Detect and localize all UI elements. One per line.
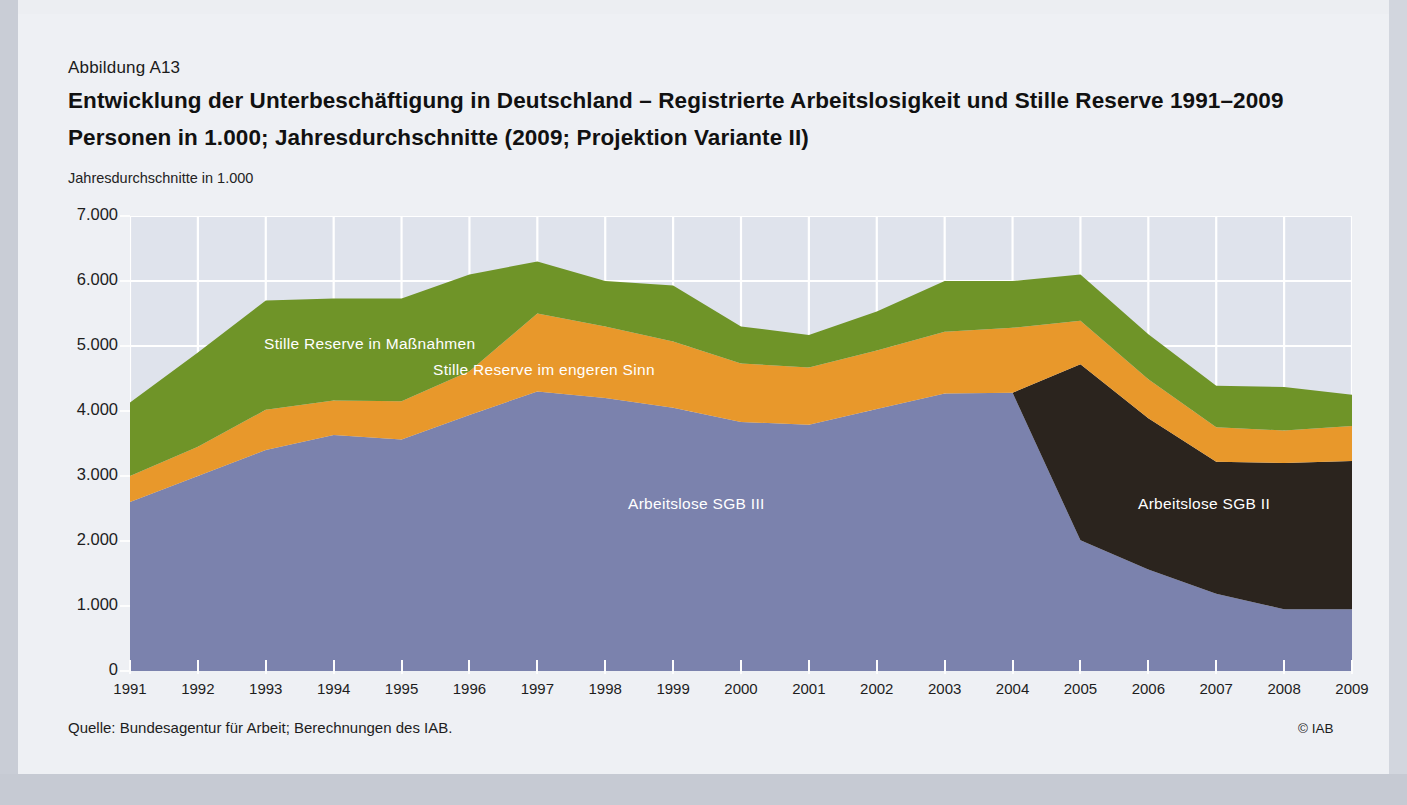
y-axis-tick [120, 215, 130, 217]
y-axis-tick-label: 0 [44, 660, 118, 679]
x-axis-tick-label: 2009 [1321, 680, 1383, 697]
y-axis-tick [120, 280, 130, 282]
x-axis-tick-label: 1994 [303, 680, 365, 697]
y-axis-tick [120, 540, 130, 542]
x-axis-tick [876, 660, 878, 674]
x-axis-tick [1215, 660, 1217, 674]
y-axis-tick [120, 345, 130, 347]
x-axis-tick [604, 660, 606, 674]
x-axis-tick-label: 1997 [506, 680, 568, 697]
x-axis-tick [672, 660, 674, 674]
x-axis-tick-label: 1999 [642, 680, 704, 697]
figure-title-line1: Entwicklung der Unterbeschäftigung in De… [68, 88, 1284, 114]
x-axis-tick [536, 660, 538, 674]
source-note: Quelle: Bundesagentur für Arbeit; Berech… [68, 719, 452, 736]
x-axis-tick-label: 2002 [846, 680, 908, 697]
x-axis-tick-label: 1992 [167, 680, 229, 697]
x-axis-tick-label: 2000 [710, 680, 772, 697]
x-axis-tick-label: 2001 [778, 680, 840, 697]
x-axis-tick [333, 660, 335, 674]
y-axis-tick [120, 410, 130, 412]
x-axis-tick-label: 1998 [574, 680, 636, 697]
y-axis-tick-label: 5.000 [44, 335, 118, 354]
x-axis-tick [1012, 660, 1014, 674]
x-axis-tick-label: 2004 [982, 680, 1044, 697]
y-axis-tick-label: 7.000 [44, 205, 118, 224]
x-axis-tick-label: 1996 [438, 680, 500, 697]
y-axis-tick-label: 1.000 [44, 595, 118, 614]
y-axis-tick-label: 3.000 [44, 465, 118, 484]
series-label-stille-reserve-im-engeren-sinn: Stille Reserve im engeren Sinn [433, 361, 655, 379]
x-axis-tick [1283, 660, 1285, 674]
page-edge-left [0, 0, 18, 805]
y-axis-tick-label: 4.000 [44, 400, 118, 419]
x-axis-tick [1147, 660, 1149, 674]
figure-title-line2: Personen in 1.000; Jahresdurchschnitte (… [68, 125, 809, 151]
x-axis-tick [808, 660, 810, 674]
x-axis-tick-label: 2006 [1117, 680, 1179, 697]
chart-plot-area [130, 216, 1352, 671]
y-axis-tick [120, 605, 130, 607]
x-axis-tick [944, 660, 946, 674]
series-label-stille-reserve-in-ma-nahmen: Stille Reserve in Maßnahmen [264, 335, 475, 353]
x-axis-tick-label: 2003 [914, 680, 976, 697]
y-axis-tick [120, 475, 130, 477]
y-axis-unit-note: Jahresdurchschnitte in 1.000 [68, 170, 253, 186]
x-axis-tick [197, 660, 199, 674]
page-edge-bottom [0, 774, 1407, 805]
x-axis-tick [1079, 660, 1081, 674]
x-axis-tick [1351, 660, 1353, 674]
series-label-arbeitslose-sgb-ii: Arbeitslose SGB II [1138, 495, 1270, 513]
x-axis-tick-label: 2008 [1253, 680, 1315, 697]
x-axis-tick [129, 660, 131, 674]
x-axis-tick-label: 2007 [1185, 680, 1247, 697]
x-axis-tick [265, 660, 267, 674]
y-axis-tick-label: 6.000 [44, 270, 118, 289]
x-axis-tick [740, 660, 742, 674]
x-axis-tick-label: 1995 [371, 680, 433, 697]
copyright-note: © IAB [1298, 721, 1333, 736]
page-edge-right [1389, 0, 1407, 805]
x-axis-tick-label: 1993 [235, 680, 297, 697]
x-axis-tick [468, 660, 470, 674]
x-axis-tick-label: 2005 [1049, 680, 1111, 697]
x-axis-tick-label: 1991 [99, 680, 161, 697]
stacked-area-chart [130, 216, 1352, 671]
y-axis-tick-label: 2.000 [44, 530, 118, 549]
series-label-arbeitslose-sgb-iii: Arbeitslose SGB III [628, 495, 765, 513]
figure-number: Abbildung A13 [68, 58, 180, 78]
figure-page: Abbildung A13 Entwicklung der Unterbesch… [0, 0, 1407, 805]
x-axis-tick [401, 660, 403, 674]
